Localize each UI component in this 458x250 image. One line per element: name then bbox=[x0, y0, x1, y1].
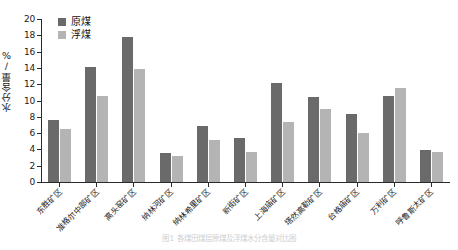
y-tick-label: 0 bbox=[29, 178, 35, 187]
bar-raw[interactable] bbox=[85, 67, 96, 182]
y-tick-label: 20 bbox=[24, 15, 35, 24]
bar-float[interactable] bbox=[209, 140, 220, 182]
legend-swatch-icon bbox=[58, 31, 66, 39]
y-tick-label: 16 bbox=[24, 47, 35, 56]
bar-raw[interactable] bbox=[308, 97, 319, 182]
bar-raw[interactable] bbox=[234, 138, 245, 182]
bar-group bbox=[78, 19, 115, 182]
y-tick-label: 10 bbox=[24, 96, 35, 105]
bar-raw[interactable] bbox=[420, 150, 431, 182]
y-tick-label: 4 bbox=[29, 145, 35, 154]
bar-group bbox=[153, 19, 190, 182]
figure-container: 水分含量/% 02468101214161820 原煤浮煤 东胜矿区准格尔中部矿… bbox=[0, 0, 458, 250]
bar-float[interactable] bbox=[246, 152, 257, 182]
bar-float[interactable] bbox=[283, 122, 294, 182]
bar-raw[interactable] bbox=[383, 96, 394, 182]
bar-float[interactable] bbox=[358, 133, 369, 182]
bar-raw[interactable] bbox=[122, 37, 133, 182]
y-tick-label: 8 bbox=[29, 112, 35, 121]
bar-group bbox=[41, 19, 78, 182]
y-tick-label: 18 bbox=[24, 31, 35, 40]
legend-item-1[interactable]: 原煤 bbox=[58, 17, 91, 27]
y-tick-label: 12 bbox=[24, 80, 35, 89]
bar-raw[interactable] bbox=[271, 83, 282, 182]
bar-raw[interactable] bbox=[48, 120, 59, 182]
bar-float[interactable] bbox=[134, 69, 145, 182]
figure-caption: 图1 各煤田煤层原煤及浮煤水分含量对比图 bbox=[0, 234, 458, 243]
bar-float[interactable] bbox=[97, 96, 108, 182]
x-axis-label-1: 东胜矿区 bbox=[35, 188, 64, 217]
bar-groups bbox=[41, 19, 450, 182]
x-label-cell: 呼鲁斯太矿区 bbox=[413, 187, 450, 235]
bar-float[interactable] bbox=[320, 109, 331, 182]
bar-group bbox=[301, 19, 338, 182]
chart-legend: 原煤浮煤 bbox=[58, 17, 91, 43]
bar-group bbox=[190, 19, 227, 182]
bar-float[interactable] bbox=[432, 152, 443, 182]
y-tick-label: 6 bbox=[29, 129, 35, 138]
legend-label: 浮煤 bbox=[71, 30, 91, 40]
bar-group bbox=[264, 19, 301, 182]
bar-float[interactable] bbox=[60, 129, 71, 182]
legend-swatch-icon bbox=[58, 18, 66, 26]
bar-group bbox=[115, 19, 152, 182]
bar-group bbox=[376, 19, 413, 182]
bar-group bbox=[227, 19, 264, 182]
bar-group bbox=[339, 19, 376, 182]
bar-raw[interactable] bbox=[346, 114, 357, 182]
bar-raw[interactable] bbox=[197, 126, 208, 182]
y-tick-label: 2 bbox=[29, 161, 35, 170]
legend-label: 原煤 bbox=[71, 17, 91, 27]
y-tick-label: 14 bbox=[24, 63, 35, 72]
x-axis-labels: 东胜矿区准格尔中部矿区高头窑矿区纳林河矿区纳林希里矿区新街矿区上海庙矿区塔然高勒… bbox=[41, 187, 450, 235]
bar-float[interactable] bbox=[172, 156, 183, 182]
y-axis-title: 水分含量/% bbox=[2, 50, 14, 112]
bar-group bbox=[413, 19, 450, 182]
bar-float[interactable] bbox=[395, 88, 406, 182]
bar-raw[interactable] bbox=[160, 153, 171, 182]
legend-item-2[interactable]: 浮煤 bbox=[58, 30, 91, 40]
